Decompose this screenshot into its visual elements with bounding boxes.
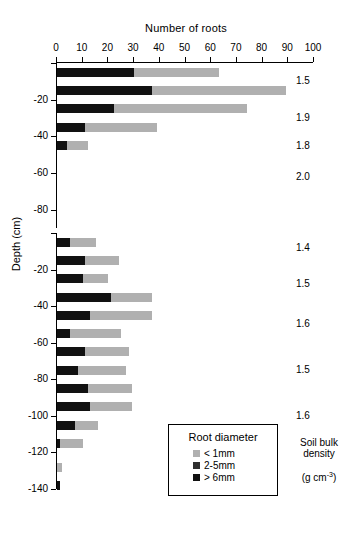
y-tick: [51, 136, 56, 137]
bar-segment-lt1mm: [134, 68, 219, 77]
bar-segment-lt1mm: [90, 402, 131, 411]
soil-bulk-density-value: 1.4: [296, 242, 342, 253]
x-tick: [159, 57, 160, 62]
y-tick: [51, 306, 56, 307]
bar-segment-gt6mm: [57, 86, 152, 95]
bar-segment-lt1mm: [78, 366, 127, 375]
x-tick: [287, 57, 288, 62]
y-tick-label: -80: [14, 204, 48, 215]
legend-entry: > 6mm: [193, 472, 277, 483]
soil-bulk-density-title-line: density: [292, 448, 342, 459]
soil-bulk-density-title-line: Soil bulk: [292, 437, 342, 448]
bar-stack: [57, 274, 108, 283]
x-axis: 0102030405060708090100: [56, 62, 313, 63]
bar-stack: [57, 141, 88, 150]
y-tick: [51, 343, 56, 344]
y-tick: [51, 489, 56, 490]
bar-stack: [57, 439, 83, 448]
bar-segment-lt1mm: [85, 347, 129, 356]
y-axis-spine: [56, 233, 57, 489]
bar-segment-lt1mm: [111, 293, 152, 302]
legend-swatch-icon: [193, 450, 200, 457]
x-tick: [236, 57, 237, 62]
bar-stack: [57, 293, 152, 302]
bar-segment-gt6mm: [57, 141, 67, 150]
soil-bulk-density-value: 1.5: [296, 278, 342, 289]
bar-stack: [57, 329, 121, 338]
bar-segment-lt1mm: [67, 141, 88, 150]
y-tick-label: -120: [14, 446, 48, 457]
bar-stack: [57, 238, 96, 247]
bar-segment-gt6mm: [57, 384, 88, 393]
soil-bulk-density-value: 1.6: [296, 410, 342, 421]
bar-stack: [57, 68, 219, 77]
bar-stack: [57, 402, 132, 411]
y-tick-label: -20: [14, 264, 48, 275]
x-tick: [185, 57, 186, 62]
bar-segment-lt1mm: [85, 123, 157, 132]
bar-stack: [57, 311, 152, 320]
bar-segment-gt6mm: [57, 104, 114, 113]
soil-bulk-density-units: (g cm-3): [292, 469, 342, 483]
bar-stack: [57, 421, 98, 430]
bar-segment-gt6mm: [57, 311, 90, 320]
legend-entries: < 1mm2-5mm> 6mm: [169, 448, 277, 483]
bar-stack: [57, 463, 62, 472]
legend-swatch-icon: [193, 474, 200, 481]
y-tick: [51, 210, 56, 211]
y-axis-title: Depth (cm): [10, 184, 22, 304]
y-tick-label: -40: [14, 300, 48, 311]
y-tick-label: -60: [14, 167, 48, 178]
bar-segment-gt6mm: [57, 123, 85, 132]
bar-stack: [57, 347, 129, 356]
root-depth-chart: Number of roots Depth (cm) 0102030405060…: [0, 0, 342, 534]
y-tick-label: -20: [14, 94, 48, 105]
soil-bulk-density-value: 1.8: [296, 140, 342, 151]
bar-segment-lt1mm: [70, 329, 121, 338]
x-tick: [133, 57, 134, 62]
bar-segment-gt6mm: [57, 481, 60, 490]
x-tick: [82, 57, 83, 62]
bar-stack: [57, 366, 126, 375]
x-tick-label: 100: [298, 42, 328, 53]
bar-segment-gt6mm: [57, 329, 70, 338]
legend-entry: < 1mm: [193, 448, 277, 459]
x-tick: [262, 57, 263, 62]
bar-stack: [57, 256, 119, 265]
bar-segment-gt6mm: [57, 366, 78, 375]
y-tick: [51, 233, 56, 234]
y-tick: [51, 416, 56, 417]
y-tick-label: -80: [14, 373, 48, 384]
bar-stack: [57, 104, 247, 113]
soil-bulk-density-value: 1.5: [296, 364, 342, 375]
bar-segment-lt1mm: [70, 238, 96, 247]
bar-stack: [57, 384, 132, 393]
legend: Root diameter < 1mm2-5mm> 6mm: [168, 424, 278, 496]
soil-bulk-density-value: 1.5: [296, 75, 342, 86]
x-tick: [210, 57, 211, 62]
bar-segment-gt6mm: [57, 256, 85, 265]
x-tick: [313, 57, 314, 62]
soil-bulk-density-value: 1.6: [296, 318, 342, 329]
y-tick-label: -140: [14, 483, 48, 494]
y-tick-label: -40: [14, 130, 48, 141]
bar-segment-lt1mm: [85, 256, 118, 265]
soil-bulk-density-value: 1.9: [296, 112, 342, 123]
y-tick: [51, 270, 56, 271]
bar-segment-lt1mm: [83, 274, 109, 283]
x-tick: [107, 57, 108, 62]
legend-label: < 1mm: [204, 448, 235, 459]
x-tick: [56, 57, 57, 62]
y-tick: [51, 379, 56, 380]
legend-title: Root diameter: [169, 431, 277, 443]
legend-label: > 6mm: [204, 472, 235, 483]
y-tick: [51, 100, 56, 101]
bar-stack: [57, 481, 60, 490]
bar-segment-gt6mm: [57, 293, 111, 302]
bar-segment-lt1mm: [88, 384, 132, 393]
legend-label: 2-5mm: [204, 460, 235, 471]
bar-stack: [57, 123, 157, 132]
y-tick: [51, 173, 56, 174]
y-tick: [51, 452, 56, 453]
bar-segment-gt6mm: [57, 347, 85, 356]
